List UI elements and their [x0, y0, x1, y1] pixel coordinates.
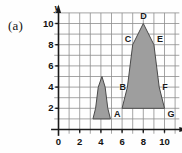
y-tick-label-4: 4	[48, 81, 53, 92]
coordinate-plot	[0, 0, 182, 153]
y-tick-label-6: 6	[48, 60, 53, 71]
y-axis-name: y	[54, 3, 58, 13]
x-tick-label-2: 2	[77, 136, 82, 147]
y-tick-label-8: 8	[48, 39, 53, 50]
x-tick-label-10: 10	[159, 136, 170, 147]
vertex-label-A: A	[114, 109, 121, 119]
x-tick-label-8: 8	[141, 136, 146, 147]
x-tick-label-6: 6	[119, 136, 124, 147]
y-tick-label-10: 10	[43, 18, 54, 29]
vertex-label-G: G	[168, 109, 175, 119]
x-tick-label-0: 0	[56, 136, 61, 147]
vertex-label-D: D	[140, 11, 147, 21]
vertex-label-B: B	[119, 82, 126, 92]
x-axis-arrowhead	[179, 127, 182, 132]
y-tick-label-2: 2	[48, 102, 53, 113]
figure-panel: (a) 0246810246810xyABCDEFG	[0, 0, 182, 153]
x-tick-label-4: 4	[98, 136, 103, 147]
vertex-label-F: F	[162, 82, 168, 92]
vertex-label-E: E	[157, 34, 163, 44]
vertex-label-C: C	[125, 34, 132, 44]
